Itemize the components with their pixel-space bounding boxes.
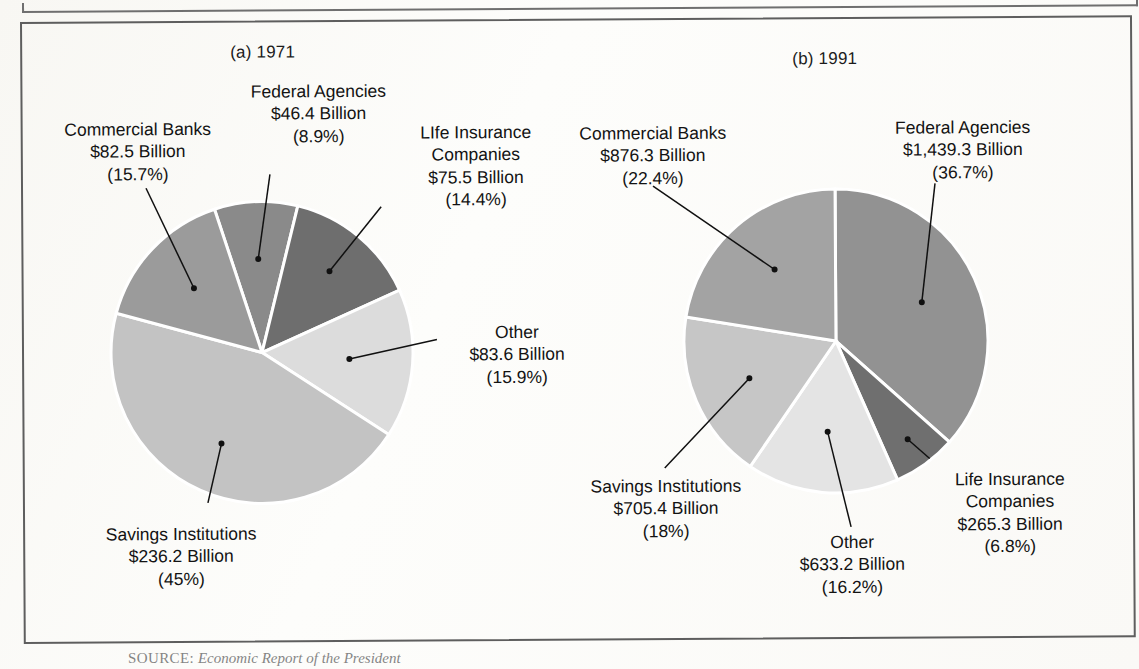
label-a-commercial-banks-percent: (15.7%) xyxy=(43,162,233,186)
label-b-commercial-banks-percent: (22.4%) xyxy=(553,166,753,190)
label-b-federal-agencies: Federal Agencies $1,439.3 Billion (36.7%… xyxy=(853,116,1073,185)
leader-dot xyxy=(326,268,332,274)
label-b-commercial-banks: Commercial Banks $876.3 Billion (22.4%) xyxy=(553,122,753,190)
label-a-life-insurance-percent: (14.4%) xyxy=(381,188,571,212)
label-a-savings-institutions-percent: (45%) xyxy=(71,567,291,591)
leader-dot xyxy=(772,266,778,272)
leader-dot xyxy=(746,375,752,381)
leader-dot xyxy=(218,441,224,447)
leader-dot xyxy=(825,429,831,435)
source-caption: SOURCE: Economic Report of the President xyxy=(128,650,401,668)
label-a-savings-institutions-name: Savings Institutions xyxy=(71,522,291,546)
label-b-other-percent: (16.2%) xyxy=(757,575,947,599)
figure-border-box: (a) 1971 Commercial Banks $82.5 Billion … xyxy=(20,15,1136,644)
label-b-savings-institutions-name: Savings Institutions xyxy=(557,474,775,498)
label-a-commercial-banks-name: Commercial Banks xyxy=(43,118,233,142)
pie-slice xyxy=(685,189,836,342)
panel-1991: (b) 1991 Commercial Banks $876.3 Billion… xyxy=(562,17,1134,638)
leader-dot xyxy=(346,356,352,362)
leader-dot xyxy=(905,436,911,442)
label-b-federal-agencies-name: Federal Agencies xyxy=(853,116,1073,140)
leader-dot xyxy=(255,256,261,262)
label-b-savings-institutions-amount: $705.4 Billion xyxy=(557,497,775,521)
label-b-commercial-banks-amount: $876.3 Billion xyxy=(553,144,753,168)
source-caption-label: SOURCE: xyxy=(128,650,194,666)
label-a-life-insurance-amount: $75.5 Billion xyxy=(381,165,571,189)
label-b-other-amount: $633.2 Billion xyxy=(757,553,947,577)
panel-1971: (a) 1971 Commercial Banks $82.5 Billion … xyxy=(50,21,594,642)
leader-dot xyxy=(191,285,197,291)
label-b-life-insurance-name2: Companies xyxy=(910,490,1110,514)
label-a-life-insurance-name2: Companies xyxy=(381,143,571,167)
label-b-other: Other $633.2 Billion (16.2%) xyxy=(757,530,947,598)
label-a-savings-institutions: Savings Institutions $236.2 Billion (45%… xyxy=(71,522,291,591)
source-caption-text: Economic Report of the President xyxy=(198,650,401,666)
figure-stage: (a) 1971 Commercial Banks $82.5 Billion … xyxy=(0,0,1139,669)
label-a-federal-agencies-name: Federal Agencies xyxy=(225,80,411,104)
label-b-federal-agencies-amount: $1,439.3 Billion xyxy=(853,138,1073,162)
label-a-savings-institutions-amount: $236.2 Billion xyxy=(71,545,291,569)
label-a-life-insurance-name: LIfe Insurance xyxy=(381,121,571,145)
label-b-life-insurance-name: Life Insurance xyxy=(910,467,1110,491)
label-b-savings-institutions-percent: (18%) xyxy=(557,519,775,543)
label-b-savings-institutions: Savings Institutions $705.4 Billion (18%… xyxy=(557,474,775,543)
label-b-commercial-banks-name: Commercial Banks xyxy=(553,122,753,146)
label-a-commercial-banks-amount: $82.5 Billion xyxy=(43,140,233,164)
label-a-life-insurance: LIfe Insurance Companies $75.5 Billion (… xyxy=(381,121,572,212)
leader-dot xyxy=(919,299,925,305)
label-b-federal-agencies-percent: (36.7%) xyxy=(853,160,1073,184)
label-b-other-name: Other xyxy=(757,530,947,554)
label-a-commercial-banks: Commercial Banks $82.5 Billion (15.7%) xyxy=(43,118,233,186)
